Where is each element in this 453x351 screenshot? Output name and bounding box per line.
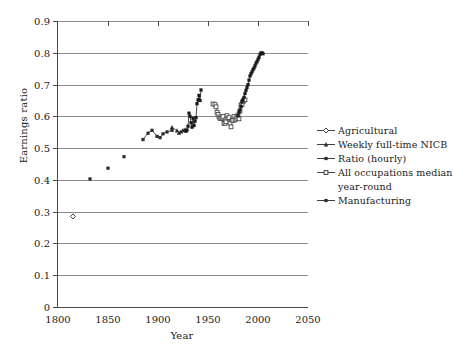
data-point bbox=[238, 108, 241, 111]
y-axis-title: Earnings ratio bbox=[18, 61, 29, 191]
data-point bbox=[246, 83, 249, 86]
data-point bbox=[71, 214, 76, 219]
data-point bbox=[245, 86, 248, 89]
legend-marker-icon bbox=[316, 152, 338, 165]
legend-marker-icon bbox=[316, 194, 338, 207]
y-axis-tick-label: 0.3 bbox=[34, 206, 50, 217]
y-axis-tick-label: 0.8 bbox=[34, 47, 50, 58]
y-axis-tick-label: 0 bbox=[44, 302, 50, 313]
data-point bbox=[161, 132, 164, 135]
data-point bbox=[237, 117, 241, 121]
data-point bbox=[155, 135, 158, 138]
y-axis-tick-label: 0.2 bbox=[34, 238, 50, 249]
plot-area: 00.10.20.30.40.50.60.70.80.9180018501900… bbox=[57, 21, 308, 308]
data-point bbox=[88, 177, 91, 180]
legend-label: year-round bbox=[338, 180, 392, 193]
data-point bbox=[185, 128, 188, 131]
x-axis-title: Year bbox=[57, 330, 307, 341]
data-series bbox=[71, 214, 76, 219]
data-point bbox=[106, 167, 109, 170]
data-point bbox=[122, 155, 125, 158]
data-series-layer bbox=[58, 21, 308, 307]
legend-label: Agricultural bbox=[338, 124, 397, 137]
data-point bbox=[186, 125, 189, 128]
legend-entry: Ratio (hourly) bbox=[316, 152, 443, 165]
data-series bbox=[88, 129, 173, 181]
data-point bbox=[199, 88, 202, 91]
data-point bbox=[197, 94, 200, 97]
data-point bbox=[141, 138, 144, 141]
legend-marker-icon bbox=[316, 180, 338, 193]
legend-marker-icon bbox=[316, 166, 338, 179]
data-point bbox=[236, 114, 239, 117]
data-point bbox=[146, 132, 149, 135]
y-axis-tick-label: 0.1 bbox=[34, 270, 50, 281]
data-point bbox=[150, 129, 153, 132]
x-axis-tick-label: 2000 bbox=[245, 314, 270, 325]
data-point bbox=[261, 52, 264, 55]
data-point bbox=[170, 129, 173, 132]
chart-legend: AgriculturalWeekly full-time NICBRatio (… bbox=[316, 124, 443, 208]
x-axis-tick-label: 1950 bbox=[195, 314, 220, 325]
data-point bbox=[239, 105, 242, 108]
legend-entry: year-round bbox=[316, 180, 443, 193]
y-axis-tick-label: 0.7 bbox=[34, 79, 50, 90]
legend-entry: All occupations median bbox=[316, 166, 443, 179]
x-axis-tick-label: 1800 bbox=[45, 314, 70, 325]
data-point bbox=[165, 130, 168, 133]
legend-entry: Manufacturing bbox=[316, 194, 443, 207]
data-point bbox=[242, 96, 245, 99]
legend-marker-icon bbox=[316, 138, 338, 151]
data-point bbox=[189, 121, 192, 124]
legend-entry: Weekly full-time NICB bbox=[316, 138, 443, 151]
y-axis-tick bbox=[53, 307, 58, 308]
x-axis-tick-label: 1850 bbox=[95, 314, 120, 325]
data-point bbox=[188, 115, 191, 118]
data-point bbox=[229, 125, 233, 129]
data-point bbox=[191, 117, 194, 120]
data-point bbox=[193, 120, 196, 123]
data-point bbox=[247, 79, 250, 82]
legend-entry: Agricultural bbox=[316, 124, 443, 137]
x-axis-tick-label: 2050 bbox=[295, 314, 320, 325]
data-point bbox=[198, 99, 201, 102]
legend-label: Weekly full-time NICB bbox=[338, 138, 447, 151]
y-axis-tick-label: 0.9 bbox=[34, 16, 50, 27]
legend-label: Ratio (hourly) bbox=[338, 152, 406, 165]
data-point bbox=[170, 125, 174, 129]
legend-marker-icon bbox=[316, 124, 338, 137]
x-axis-tick bbox=[308, 21, 309, 26]
x-axis-tick-label: 1900 bbox=[145, 314, 170, 325]
data-point bbox=[195, 102, 198, 105]
data-point bbox=[257, 56, 260, 59]
legend-label: Manufacturing bbox=[338, 194, 411, 207]
data-point bbox=[221, 114, 225, 118]
data-point bbox=[187, 112, 190, 115]
data-point bbox=[192, 124, 195, 127]
legend-label: All occupations median bbox=[338, 166, 453, 179]
data-point bbox=[194, 116, 197, 119]
data-point bbox=[243, 92, 246, 95]
y-axis-tick-label: 0.5 bbox=[34, 143, 50, 154]
y-axis-tick-label: 0.4 bbox=[34, 174, 50, 185]
data-point bbox=[158, 136, 161, 139]
data-point bbox=[244, 89, 247, 92]
data-point bbox=[214, 105, 218, 109]
y-axis-tick-label: 0.6 bbox=[34, 111, 50, 122]
